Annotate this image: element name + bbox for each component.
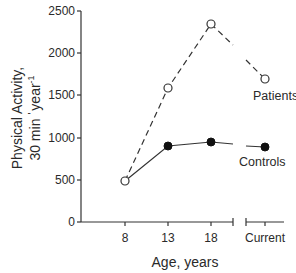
series-label-patients: Patients [253,89,296,103]
svg-text:30 min'year-1: 30 min'year-1 [26,75,43,160]
data-point [207,20,215,28]
data-point [207,138,215,146]
line-chart: 0 500 1000 1500 2000 2500 8 13 18 Curren… [0,0,296,273]
series-label-controls: Controls [239,155,286,169]
x-tick-label: 18 [204,231,218,245]
y-tick-label: 1500 [48,88,75,102]
x-tick-label: 13 [161,231,175,245]
x-tick-label: Current [245,231,286,245]
data-point [261,75,269,83]
y-units-sup: -1 [26,75,36,83]
y-tick-label: 500 [55,173,75,187]
data-point [261,143,269,151]
y-tick-label: 2500 [48,4,75,18]
y-tick-label: 1000 [48,131,75,145]
y-tick-label: 0 [68,215,75,229]
x-axis-label: Age, years [152,254,219,270]
y-axis-label-units: 30 min'year-1 [26,75,43,160]
data-point [121,177,129,185]
y-axis-label: Physical Activity, [9,67,25,169]
y-tick-label: 2000 [48,46,75,60]
x-axis [81,218,284,226]
data-point [164,142,172,150]
y-units-part: year [27,83,43,111]
data-point [164,84,172,92]
x-tick-label: 8 [122,231,129,245]
svg-text:Physical Activity,: Physical Activity, [9,67,25,169]
y-units-part: 30 min [27,119,43,161]
